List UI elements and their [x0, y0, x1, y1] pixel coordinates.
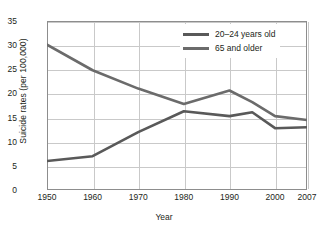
y-tick-label: 30 [0, 41, 17, 50]
legend-label: 20–24 years old [215, 30, 276, 39]
y-tick-label: 10 [0, 138, 17, 147]
legend-item: 20–24 years old [183, 27, 276, 41]
y-tick-label: 5 [0, 162, 17, 171]
x-tick-label: 1970 [118, 193, 158, 202]
x-tick-label: 1960 [73, 193, 113, 202]
y-axis-title: Suicide rates (per 100,000) [18, 6, 28, 176]
y-tick-label: 25 [0, 65, 17, 74]
gridline-vertical [308, 22, 309, 189]
y-tick-label: 0 [0, 186, 17, 195]
legend-label: 65 and older [215, 44, 262, 53]
legend-item: 65 and older [183, 41, 276, 55]
x-tick-label: 2007 [287, 193, 327, 202]
x-tick-label: 1980 [164, 193, 204, 202]
legend-swatch-icon [183, 33, 209, 36]
x-axis-title: Year [0, 212, 328, 222]
x-tick-label: 1950 [27, 193, 67, 202]
y-tick-label: 35 [0, 17, 17, 26]
series-line [47, 111, 307, 161]
chart-legend: 20–24 years old 65 and older [180, 24, 280, 58]
legend-swatch-icon [183, 47, 209, 50]
x-tick-label: 1990 [209, 193, 249, 202]
line-chart: Suicide rates (per 100,000) 051015202530… [0, 0, 328, 234]
y-tick-label: 20 [0, 89, 17, 98]
y-tick-label: 15 [0, 114, 17, 123]
